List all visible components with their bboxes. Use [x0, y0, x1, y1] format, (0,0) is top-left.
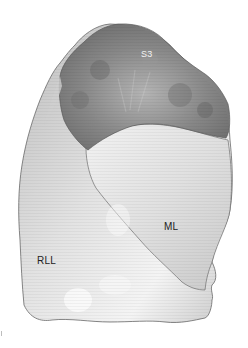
right-lower-lobe-label: RLL: [37, 256, 56, 266]
lung-surface-image: [0, 0, 248, 348]
segment-s3-label: S3: [141, 49, 152, 59]
lung-rendering: S3 ML RLL: [0, 0, 248, 348]
scale-mark: [1, 331, 2, 336]
middle-lobe-label: ML: [164, 222, 178, 232]
